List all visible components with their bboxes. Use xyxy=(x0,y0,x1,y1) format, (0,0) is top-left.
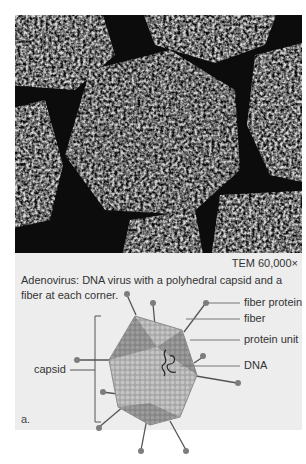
magnification-label: TEM 60,000× xyxy=(232,257,298,269)
label-capsid: capsid xyxy=(34,363,66,375)
label-dna: DNA xyxy=(244,359,267,371)
label-fiber-protein: fiber protein xyxy=(244,296,302,308)
label-protein-unit: protein unit xyxy=(244,333,298,345)
adenovirus-diagram: fiber protein fiber protein unit DNA cap… xyxy=(0,290,306,464)
label-fiber: fiber xyxy=(244,312,265,324)
tem-micrograph xyxy=(15,15,302,253)
panel-label: a. xyxy=(21,413,30,425)
